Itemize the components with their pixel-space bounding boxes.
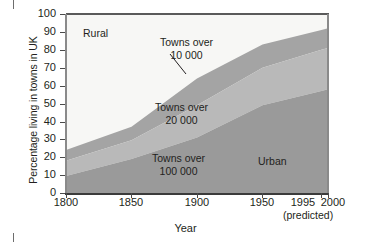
x-tick-label-1850: 1850 [116, 196, 146, 208]
annotation-towns-over-10000-line2: 10 000 [160, 49, 213, 62]
x-axis-title: Year [0, 222, 371, 234]
y-tick-label-100: 100 [22, 8, 56, 19]
area-chart-figure: Percentage living in towns in UK 100 90 … [0, 0, 371, 242]
y-tick-label-70: 70 [22, 62, 56, 73]
annotation-towns-over-10000: Towns over 10 000 [160, 36, 213, 61]
y-tick-label-20: 20 [22, 151, 56, 162]
x-tick-label-1800: 1800 [51, 196, 81, 208]
annotation-towns-over-20000: Towns over 20 000 [155, 101, 208, 126]
crop-mark-top-left [13, 0, 14, 9]
crop-mark-bottom-left [13, 233, 14, 242]
annotation-rural: Rural [83, 27, 108, 40]
x-tick-label-1900: 1900 [182, 196, 212, 208]
y-tick-label-90: 90 [22, 26, 56, 37]
y-tick-label-30: 30 [22, 133, 56, 144]
y-tick-label-80: 80 [22, 44, 56, 55]
y-tick-label-60: 60 [22, 80, 56, 91]
x-tick-label-1950: 1950 [247, 196, 277, 208]
annotation-towns-over-100000: Towns over 100 000 [152, 152, 205, 177]
plot-border-top [66, 13, 329, 15]
plot-border-right [327, 14, 329, 194]
plot-border-left [65, 14, 67, 194]
predicted-note: (predicted) [283, 209, 333, 221]
x-tick-label-2000: 2000 [318, 196, 348, 208]
annotation-urban: Urban [258, 155, 287, 168]
annotation-towns-over-100000-line2: 100 000 [152, 165, 205, 178]
x-tick-label-1995: 1995 [288, 196, 318, 208]
annotation-towns-over-20000-line2: 20 000 [155, 114, 208, 127]
y-axis-title: Percentage living in towns in UK [27, 10, 39, 210]
annotation-towns-over-10000-line1: Towns over [160, 36, 213, 48]
annotation-towns-over-20000-line1: Towns over [155, 101, 208, 113]
y-tick-label-40: 40 [22, 116, 56, 127]
y-tick-label-10: 10 [22, 169, 56, 180]
annotation-towns-over-100000-line1: Towns over [152, 152, 205, 164]
y-tick-label-50: 50 [22, 98, 56, 109]
